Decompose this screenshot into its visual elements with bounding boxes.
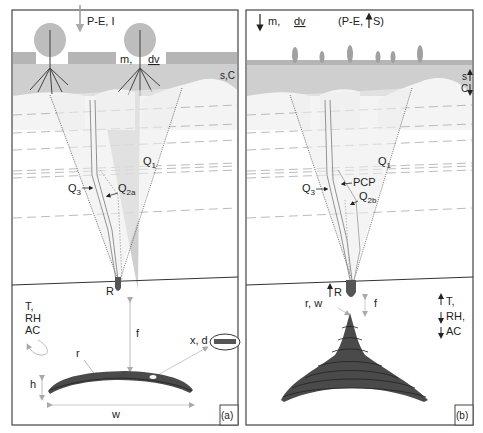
dv-label: dv [294, 15, 306, 27]
climate-label-rh: RH, [446, 310, 465, 322]
s-label: S) [373, 15, 384, 27]
panel-a-tag: (a) [221, 410, 233, 421]
climate-label-ac: AC [25, 324, 40, 336]
soil-s-label: s [462, 71, 467, 82]
vegetation-label: m, [120, 53, 132, 65]
soil-c-label: C [461, 83, 468, 94]
r-label: r [76, 347, 80, 359]
flux-label: P-E, I [87, 15, 115, 27]
climate-label-t: T, [25, 300, 34, 312]
h-label: h [30, 378, 36, 390]
figure: P-E, I m, dv s,C Q1 Q3 Q2a R T, RH AC f … [0, 0, 483, 433]
xd-label: x, d [190, 334, 208, 346]
panel-b-tag: (b) [456, 410, 468, 421]
grass [13, 52, 36, 64]
stalactite [115, 277, 121, 291]
soil-label: s,C [220, 70, 235, 81]
dv-label: dv [148, 53, 160, 65]
stalactite [346, 280, 356, 297]
drip-label: R [334, 286, 342, 298]
panel-a: P-E, I m, dv s,C Q1 Q3 Q2a R T, RH AC f … [12, 5, 240, 425]
m-label: m, [268, 15, 280, 27]
rw-label: r, w [305, 297, 322, 309]
flux-label: (P-E, [338, 15, 363, 27]
w-label: w [111, 408, 120, 420]
panel-b: m, dv (P-E, S) s C Q1 Q3 PCP Q2b R r, w … [246, 10, 473, 425]
grass [247, 60, 472, 65]
climate-label-t: T, [446, 295, 455, 307]
pcp-label: PCP [353, 176, 376, 188]
drip-label: R [106, 285, 114, 297]
climate-label-ac: AC [446, 325, 461, 337]
climate-label-rh: RH [25, 312, 41, 324]
